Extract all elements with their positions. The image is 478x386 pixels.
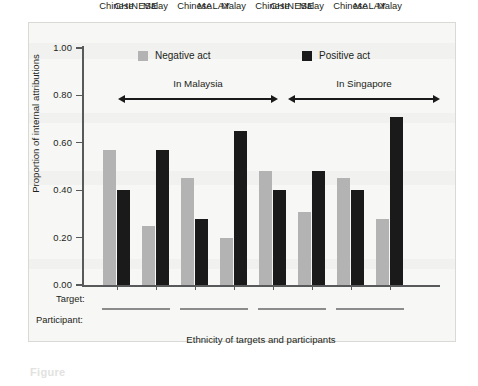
participant-group-rule: [180, 308, 248, 310]
x-axis-tick: [351, 286, 352, 290]
figure-caption-fragment: Figure: [30, 366, 65, 378]
participant-label-malay-3: MALAY: [326, 0, 414, 11]
x-axis-tick: [195, 286, 196, 290]
bar-positive-act: [312, 171, 325, 285]
participant-label-chinese-2: CHINESE: [248, 0, 336, 11]
bar-positive-act: [390, 117, 403, 285]
bar-positive-act: [117, 190, 130, 285]
bar-negative-act: [259, 171, 272, 285]
x-axis-tick: [273, 286, 274, 290]
bar-negative-act: [337, 178, 350, 285]
bar-positive-act: [234, 131, 247, 285]
x-axis-title: Ethnicity of targets and participants: [82, 334, 440, 345]
participant-label-chinese-0: CHINESE: [92, 0, 180, 11]
bar-negative-act: [103, 150, 116, 285]
bar-negative-act: [298, 212, 311, 285]
bar-negative-act: [220, 238, 233, 285]
x-axis-tick: [156, 286, 157, 290]
participant-label-malay-1: MALAY: [170, 0, 258, 11]
bar-positive-act: [156, 150, 169, 285]
participant-group-rule: [102, 308, 170, 310]
bar-negative-act: [376, 219, 389, 285]
bar-series-group: [0, 0, 478, 386]
participant-group-rule: [258, 308, 326, 310]
participant-group-rule: [336, 308, 404, 310]
bar-negative-act: [181, 178, 194, 285]
participant-row-title: Participant:: [36, 314, 83, 325]
bar-negative-act: [142, 226, 155, 285]
x-axis-tick: [117, 286, 118, 290]
bar-positive-act: [351, 190, 364, 285]
bar-positive-act: [195, 219, 208, 285]
x-axis-tick: [312, 286, 313, 290]
bar-positive-act: [273, 190, 286, 285]
x-axis-tick: [234, 286, 235, 290]
target-row-title: Target:: [56, 293, 85, 304]
x-axis-tick: [390, 286, 391, 290]
figure-page: 0.000.200.400.600.801.00 Proportion of i…: [0, 0, 478, 386]
